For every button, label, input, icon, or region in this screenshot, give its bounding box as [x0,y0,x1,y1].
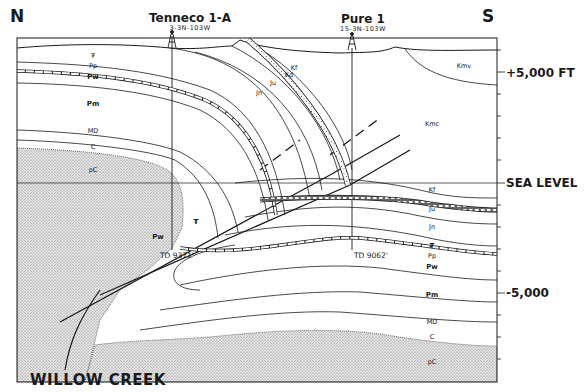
elevation-plus-5000: +5,000 FT [506,66,575,80]
unit-pc-south: pC [428,358,437,366]
south-label: S [482,6,494,26]
unit-kmc-south: Kmc [425,120,439,128]
fault-name-willow-creek: WILLOW CREEK [30,371,166,389]
unit-pw-north: Pw [87,73,99,81]
unit-c-north: C [91,143,96,151]
unit-jn-fold: Jn [256,89,262,97]
unit-tr-south: ₮ [430,242,435,250]
well-name-pure: Pure 1 [328,12,398,26]
unit-kmv-south: Kmv [457,62,471,70]
elevation-ticks [497,50,505,359]
unit-pp-south: Pp [428,252,436,260]
td-tenneco: TD 9371' [160,251,194,260]
unit-pw-south: Pw [426,263,438,271]
well-location-tenneco: 3-3N-103W [140,24,240,32]
north-label: N [10,6,24,26]
unit-md-north: MD [88,127,99,135]
unit-md-south: MD [427,318,438,326]
unit-pm-south: Pm [426,291,438,299]
unit-kf-south: Kf [429,186,436,194]
unit-c-south: C [430,333,435,341]
unit-ju-fold: Ju [270,79,276,87]
unit-ju-south: Ju [429,205,435,213]
derrick-icon-pure [348,33,356,51]
unit-tr-north: ₮ [91,52,95,60]
unit-kd-fold: Kd [285,71,293,79]
unit-pc-north: pC [89,166,98,174]
td-pure: TD 9062' [354,251,388,260]
unit-jn-south: Jn [429,223,435,231]
well-name-tenneco: Tenneco 1-A [140,11,240,25]
unit-tr-sliver: ₮ [194,218,199,226]
unit-pw-sliver: Pw [152,233,164,241]
elevation-minus-5000: -5,000 [506,286,549,300]
well-location-pure: 15-3N-103W [328,25,398,33]
unit-pm-north: Pm [87,100,99,108]
unit-pp-north: Pp [89,62,97,70]
elevation-sea-level: SEA LEVEL [506,176,577,190]
geologic-cross-section [0,0,588,392]
